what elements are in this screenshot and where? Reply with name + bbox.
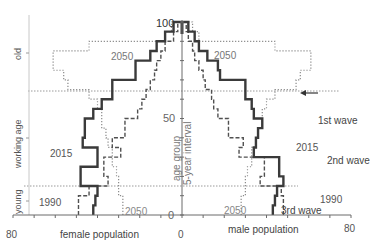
label-2050-bottom-left: 2050 bbox=[125, 206, 148, 217]
label-2050-bottom-right: 2050 bbox=[224, 205, 247, 216]
arrow-icon bbox=[300, 90, 318, 96]
y-axis-label-interval: 5-year interval bbox=[182, 122, 193, 185]
population-pyramid-chart: 100 50 0 80 0 80 female population male … bbox=[0, 0, 374, 247]
label-1990-left: 1990 bbox=[39, 197, 62, 208]
y-tick-label-50: 50 bbox=[163, 112, 175, 124]
x-axis-label-female: female population bbox=[60, 229, 139, 240]
label-2015-left: 2015 bbox=[50, 148, 73, 159]
label-2nd-wave: 2nd wave bbox=[327, 155, 370, 166]
label-1st-wave: 1st wave bbox=[318, 115, 358, 126]
x-axis-label-male: male population bbox=[228, 224, 299, 235]
band-label-working-age: working age bbox=[13, 119, 23, 169]
band-label-old: old bbox=[13, 48, 23, 60]
x-tick-label-zero: 0 bbox=[178, 229, 184, 240]
y-tick-label-100: 100 bbox=[156, 17, 174, 29]
label-3rd-wave: 3rd wave bbox=[281, 205, 322, 216]
x-tick-label-left-80: 80 bbox=[6, 229, 18, 240]
label-1990-right: 1990 bbox=[320, 194, 343, 205]
x-tick-label-right-80: 80 bbox=[344, 223, 356, 234]
label-2015-right: 2015 bbox=[296, 142, 319, 153]
y-tick-label-0: 0 bbox=[168, 209, 174, 221]
label-2050-top-left: 2050 bbox=[111, 51, 134, 62]
label-2050-top-right: 2050 bbox=[214, 50, 237, 61]
band-label-young: young bbox=[13, 189, 23, 214]
axes bbox=[13, 20, 351, 218]
y-axis-label-age-group: age group bbox=[171, 136, 182, 181]
